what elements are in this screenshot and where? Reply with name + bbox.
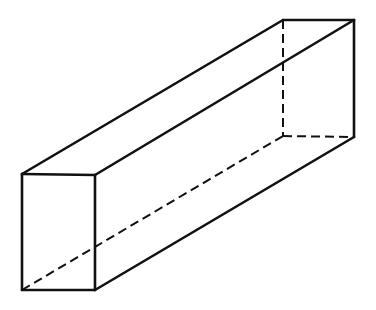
hidden-edge-back-bottom-left-to-back-bottom-right [283, 136, 354, 137]
edge-front-bottom-right-to-back-bottom-right [95, 137, 354, 290]
hidden-edges [22, 20, 354, 290]
edge-front-top-left-to-front-top-right [22, 174, 95, 175]
edge-front-top-right-to-back-top-right [95, 20, 354, 175]
hidden-edge-front-bottom-left-to-back-bottom-left [22, 136, 283, 290]
rectangular-prism-diagram [0, 0, 376, 310]
edge-front-top-left-to-back-top-left [22, 20, 283, 174]
visible-edges [22, 20, 354, 290]
